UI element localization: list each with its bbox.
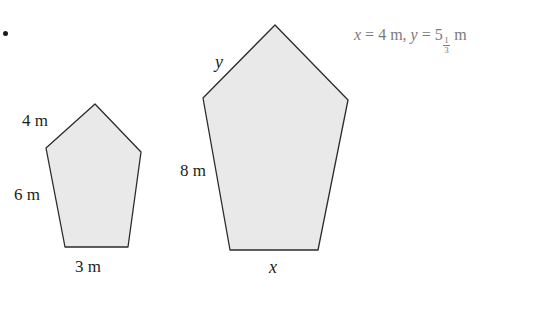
figure-page: 4 m 6 m 3 m y 8 m x x = 4 m, y = 513 m: [0, 0, 541, 311]
answer-fraction: 13: [443, 36, 450, 55]
small-pentagon-shape: [46, 104, 141, 247]
answer-eq-1: = 4 m,: [361, 26, 410, 43]
answer-eq-2: = 5: [418, 26, 443, 43]
large-pentagon-label-y: y: [215, 53, 223, 71]
small-pentagon-label-6m: 6 m: [14, 186, 40, 203]
fraction-denominator: 3: [443, 45, 450, 55]
answer-text: x = 4 m, y = 513 m: [354, 27, 467, 55]
small-pentagon-label-3m: 3 m: [75, 258, 101, 275]
fraction-numerator: 1: [443, 36, 450, 45]
large-pentagon-label-8m: 8 m: [180, 162, 206, 179]
large-pentagon-shape: [203, 25, 348, 250]
small-pentagon-label-4m: 4 m: [22, 112, 48, 129]
answer-var-y: y: [411, 26, 418, 43]
answer-unit: m: [450, 26, 466, 43]
large-pentagon-label-x: x: [269, 258, 277, 276]
